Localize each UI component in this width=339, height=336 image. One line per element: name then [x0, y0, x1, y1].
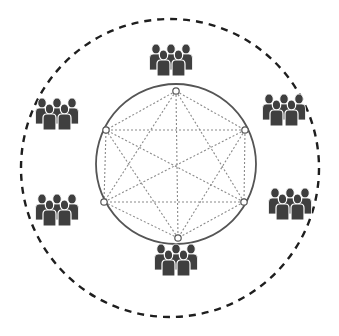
group-icon-upper-left	[36, 98, 79, 130]
node-top	[173, 88, 179, 94]
people-groups	[36, 44, 312, 276]
mesh-link-bottom-lower-left	[104, 202, 178, 238]
mesh-link-upper-right-lower-left	[104, 130, 245, 202]
group-icon-lower-right	[269, 188, 312, 220]
group-icon-bottom	[155, 244, 198, 276]
group-icon-top	[150, 44, 193, 76]
mesh-link-upper-right-bottom	[178, 130, 245, 238]
group-icon-lower-left	[36, 194, 79, 226]
node-upper-right	[242, 127, 248, 133]
network-diagram	[0, 0, 339, 336]
mesh-link-upper-right-lower-right	[244, 130, 245, 202]
group-icon-upper-right	[263, 94, 306, 126]
node-bottom	[175, 235, 181, 241]
mesh-link-lower-left-upper-left	[104, 130, 106, 202]
nodes	[101, 88, 248, 241]
node-lower-right	[241, 199, 247, 205]
node-upper-left	[103, 127, 109, 133]
mesh-connections	[104, 91, 245, 238]
mesh-link-bottom-upper-left	[106, 130, 178, 238]
mesh-link-top-lower-left	[104, 91, 176, 202]
node-lower-left	[101, 199, 107, 205]
